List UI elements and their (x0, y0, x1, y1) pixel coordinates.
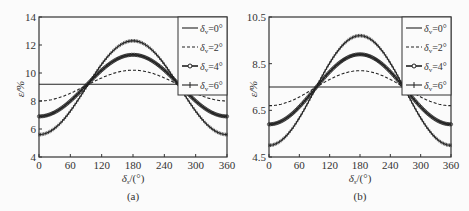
figure: 060120180240300360468101214δv=0°δv=2°δv=… (0, 0, 469, 211)
y-axis-label: ε/% (14, 81, 26, 98)
x-tick-label: 360 (443, 159, 460, 171)
y-tick-label: 10 (25, 67, 37, 79)
x-tick-label: 180 (125, 159, 142, 171)
y-tick-label: 14 (25, 11, 37, 23)
y-tick-label: 8.5 (252, 58, 266, 70)
panel-b: 0601201802403003604.56.58.510.5δv=0°δv=2… (247, 11, 460, 203)
x-tick-label: 240 (382, 159, 399, 171)
y-tick-label: 4.5 (252, 151, 266, 163)
x-tick-label: 240 (156, 159, 173, 171)
panel-a: 060120180240300360468101214δv=0°δv=2°δv=… (14, 11, 236, 203)
legend: δv=0°δv=2°δv=4°δv=6° (178, 17, 227, 95)
y-axis-label: ε/% (247, 81, 259, 98)
x-tick-label: 360 (219, 159, 236, 171)
y-tick-label: 6.5 (252, 104, 266, 116)
x-tick-label: 120 (321, 159, 338, 171)
y-tick-label: 4 (31, 151, 37, 163)
x-tick-label: 0 (266, 159, 272, 171)
legend: δv=0°δv=2°δv=4°δv=6° (402, 17, 451, 95)
x-axis-label: δs/(°) (349, 172, 372, 186)
panel-caption: (b) (354, 190, 367, 203)
x-axis-label: δs/(°) (122, 172, 145, 186)
y-tick-label: 10.5 (247, 11, 267, 23)
y-tick-label: 12 (25, 39, 36, 51)
x-tick-label: 300 (187, 159, 204, 171)
x-tick-label: 120 (93, 159, 110, 171)
y-tick-label: 6 (31, 123, 37, 135)
x-tick-label: 0 (36, 159, 42, 171)
x-tick-label: 180 (352, 159, 369, 171)
x-tick-label: 60 (65, 159, 77, 171)
x-tick-label: 60 (294, 159, 306, 171)
y-tick-label: 8 (31, 95, 37, 107)
x-tick-label: 300 (412, 159, 429, 171)
panel-caption: (a) (127, 190, 140, 203)
